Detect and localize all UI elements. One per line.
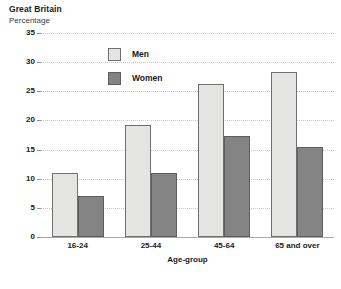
gridline (41, 237, 334, 238)
bar-women-0 (78, 196, 104, 237)
legend-swatch-women-icon (108, 72, 121, 85)
bar-women-1 (151, 173, 177, 237)
bar-men-2 (198, 84, 224, 237)
legend-item-men: Men (108, 42, 163, 66)
y-tick-label: 5 (5, 204, 35, 212)
x-axis-label: 65 and over (261, 241, 334, 251)
y-tick-mark (37, 237, 41, 238)
legend-label-women: Women (132, 73, 163, 83)
y-tick-label: 30 (5, 58, 35, 66)
x-axis-label: 16-24 (41, 241, 114, 251)
bar-women-3 (297, 147, 323, 237)
y-tick-label: 15 (5, 146, 35, 154)
bar-men-1 (125, 125, 151, 237)
bar-men-0 (52, 173, 78, 237)
bar-women-2 (224, 136, 250, 237)
bar-men-3 (271, 72, 297, 237)
bars-layer (41, 33, 334, 237)
chart-legend: Men Women (108, 42, 163, 90)
x-axis-title: Age-group (41, 255, 334, 264)
y-tick-label: 35 (5, 29, 35, 37)
chart-header: Great Britain Percentage (9, 3, 329, 27)
legend-label-men: Men (132, 49, 149, 59)
chart-title: Great Britain (9, 3, 329, 15)
x-axis-label: 25-44 (114, 241, 187, 251)
legend-swatch-men-icon (108, 48, 121, 61)
chart-subtitle: Percentage (9, 15, 329, 27)
y-tick-label: 20 (5, 116, 35, 124)
legend-item-women: Women (108, 66, 163, 90)
y-tick-label: 25 (5, 87, 35, 95)
x-axis-label: 45-64 (188, 241, 261, 251)
bar-chart: 05101520253035 16-2425-4445-6465 and ove… (0, 28, 341, 258)
y-tick-label: 0 (5, 233, 35, 241)
y-tick-label: 10 (5, 175, 35, 183)
